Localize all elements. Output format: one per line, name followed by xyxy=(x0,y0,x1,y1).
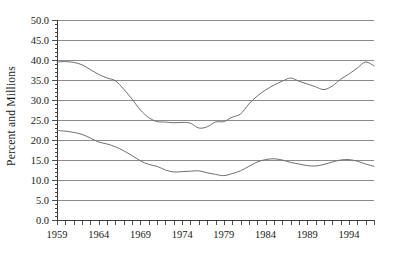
chart-figure: Percent and Millions 0.05.010.015.020.02… xyxy=(0,0,393,260)
y-tick-label: 10.0 xyxy=(31,175,49,186)
y-tick-labels-group: 0.05.010.015.020.025.030.035.040.045.050… xyxy=(31,15,49,226)
y-axis-label-text: Percent and Millions xyxy=(5,66,17,166)
x-tick-label: 1974 xyxy=(172,229,194,240)
y-tick-label: 5.0 xyxy=(36,195,49,206)
x-tick-label: 1989 xyxy=(297,229,318,240)
y-tick-label: 45.0 xyxy=(31,35,49,46)
line-chart-canvas: 0.05.010.015.020.025.030.035.040.045.050… xyxy=(0,0,393,260)
x-tick-label: 1994 xyxy=(338,229,360,240)
y-tick-label: 35.0 xyxy=(31,75,49,86)
y-tick-label: 30.0 xyxy=(31,95,49,106)
x-tick-label: 1959 xyxy=(47,229,68,240)
y-axis-label: Percent and Millions xyxy=(2,0,20,232)
y-tick-label: 40.0 xyxy=(31,55,49,66)
x-tick-label: 1964 xyxy=(88,229,110,240)
y-tick-label: 20.0 xyxy=(31,135,49,146)
x-tick-label: 1969 xyxy=(130,229,151,240)
x-tick-label: 1984 xyxy=(255,229,277,240)
x-tick-labels-group: 19591964196919741979198419891994 xyxy=(47,229,361,240)
x-tick-label: 1979 xyxy=(213,229,234,240)
series-line-lower-series xyxy=(57,130,374,175)
series-line-upper-series xyxy=(57,62,374,129)
gridlines-group xyxy=(57,21,374,201)
y-tick-label: 25.0 xyxy=(31,115,49,126)
y-axis-ticks-group xyxy=(52,21,57,221)
y-tick-label: 0.0 xyxy=(36,215,49,226)
y-tick-label: 15.0 xyxy=(31,155,49,166)
series-group xyxy=(57,62,374,176)
y-tick-label: 50.0 xyxy=(31,15,49,26)
